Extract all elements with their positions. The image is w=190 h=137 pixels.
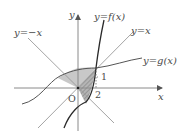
label-f: y=f(x) xyxy=(93,11,125,22)
line-y-equals-x xyxy=(38,31,134,128)
diagram-canvas: y x O y=f(x) y=x y=−x y=g(x) 1 2 xyxy=(0,0,190,137)
label-neg-identity: y=−x xyxy=(13,27,42,38)
label-identity: y=x xyxy=(130,25,151,36)
x-axis-label: x xyxy=(158,91,164,102)
mark-2: 2 xyxy=(95,89,101,100)
mark-1: 1 xyxy=(101,71,107,82)
origin-label: O xyxy=(68,93,76,104)
label-g: y=g(x) xyxy=(142,55,177,66)
y-axis-label: y xyxy=(68,9,75,20)
origin-point xyxy=(77,87,80,90)
